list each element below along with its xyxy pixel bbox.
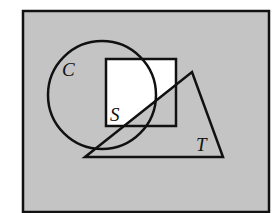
label-c: C [62,59,75,80]
label-t: T [196,134,208,155]
label-s: S [110,104,120,125]
venn-diagram: C S T [0,0,280,213]
